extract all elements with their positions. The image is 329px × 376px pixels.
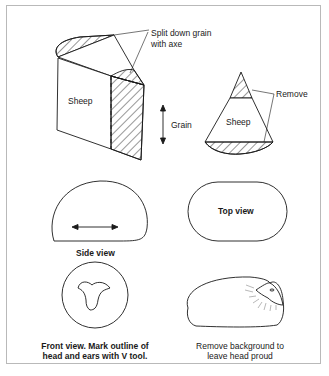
split-note-line1: Split down grain [151, 28, 211, 38]
front-view-line1: Front view. Mark outline of [30, 341, 160, 351]
grain-arrow [161, 105, 166, 144]
sheep-cone-label: Sheep [226, 117, 251, 127]
split-note-line2: with axe [151, 39, 182, 49]
cone-illustration [205, 72, 273, 154]
remove-label: Remove [276, 89, 308, 99]
side-view-label: Side view [76, 248, 115, 258]
sheep-block-label: Sheep [68, 96, 93, 106]
top-view-label: Top view [218, 206, 254, 216]
side-view-arrow [72, 225, 118, 230]
background-caption: Remove background to leave head proud [180, 341, 300, 361]
front-view-shape [62, 262, 128, 328]
diagram-canvas [0, 0, 329, 376]
relief-view-shape [187, 277, 283, 327]
front-view-line2: head and ears with V tool. [30, 351, 160, 361]
background-line1: Remove background to [180, 341, 300, 351]
side-view-shape [52, 181, 147, 241]
grain-label: Grain [171, 120, 192, 130]
front-view-caption: Front view. Mark outline of head and ear… [30, 341, 160, 361]
background-line2: leave head proud [180, 351, 300, 361]
